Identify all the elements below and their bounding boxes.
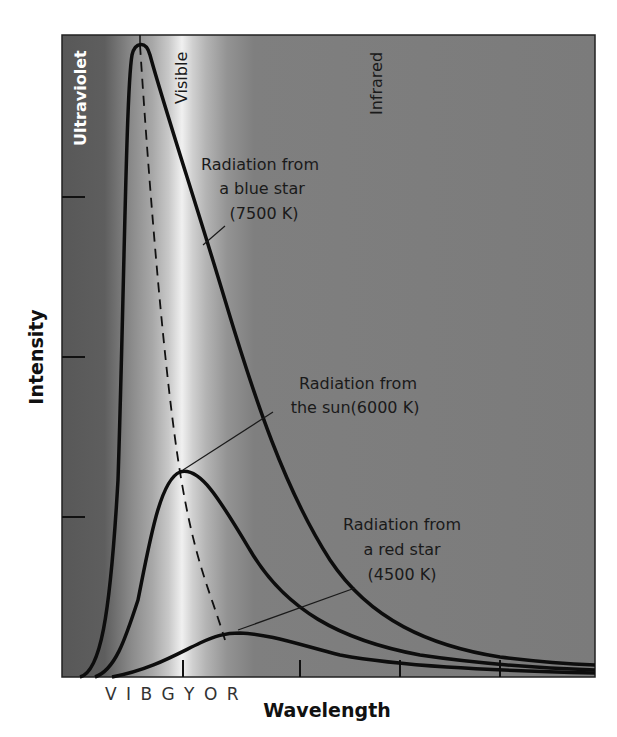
infrared-label: Infrared <box>367 52 386 115</box>
ultraviolet-label: Ultraviolet <box>71 50 90 146</box>
x-axis-title: Wavelength <box>263 699 391 721</box>
svg-text:Radiation from: Radiation from <box>299 374 417 393</box>
svg-text:a red star: a red star <box>363 540 441 559</box>
svg-text:the sun(6000 K): the sun(6000 K) <box>291 398 420 417</box>
svg-text:Radiation from: Radiation from <box>343 515 461 534</box>
spectrum-letters: V I B G Y O R <box>105 684 240 704</box>
svg-text:(4500 K): (4500 K) <box>368 565 437 584</box>
y-axis-title: Intensity <box>25 309 47 405</box>
svg-text:Radiation from: Radiation from <box>201 155 319 174</box>
visible-label: Visible <box>172 52 191 104</box>
blackbody-radiation-chart: Ultraviolet Visible Infrared Radiation f… <box>0 0 617 737</box>
svg-text:(7500 K): (7500 K) <box>230 204 299 223</box>
svg-text:a blue star: a blue star <box>219 179 305 198</box>
